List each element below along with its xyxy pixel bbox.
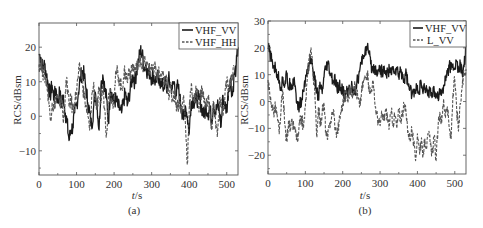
y-tick-label: 30 [254,15,266,27]
legend-item-vhf-vv-b: VHF_VV [425,23,467,34]
y-axis-label-a: RCS/dBsm [11,75,23,125]
chart-panel-a: 0100200300400500 20100−10 RCS/dBsm t/s (… [11,23,238,217]
y-tick-label: 10 [25,76,37,88]
series-line-vhf-vv [39,46,238,141]
caption-b: (b) [359,204,372,217]
legend-a: VHF_VV VHF_HH [179,23,238,49]
x-tick-label: 0 [265,177,271,189]
x-tick-label: 100 [68,178,85,190]
x-axis-label-b: t/s [360,189,370,201]
x-tick-label: 400 [181,178,198,190]
y-axis-label-b: RCS/dBsm [238,75,250,125]
y-tick-label: 20 [25,41,37,53]
x-tick-label: 0 [36,178,42,190]
x-tick-label: 100 [297,177,314,189]
legend-item-vhf-hh-a: VHF_HH [195,37,237,48]
x-tick-label: 500 [447,177,464,189]
y-tick-label: 20 [254,42,266,54]
x-tick-label: 500 [218,178,235,190]
caption-a: (a) [128,204,141,217]
y-tick-label: −10 [248,122,266,134]
y-tick-label: −10 [19,145,37,157]
x-tick-label: 400 [409,177,426,189]
plot-area-b [268,43,466,161]
legend-item-l-vv-b: L_VV [427,35,454,46]
x-tick-label: 300 [143,178,160,190]
x-axis-label-unit-b: /s [363,189,370,201]
legend-item-vhf-vv-a: VHF_VV [195,25,237,36]
x-axis-label-a: t/s [132,189,142,201]
x-tick-label: 200 [106,178,123,190]
y-tick-label: 10 [254,69,266,81]
legend-b: VHF_VV L_VV [410,21,467,47]
plot-area-a [39,46,238,165]
y-tick-label: −20 [248,149,266,161]
chart-panel-b: 0100200300400500 3020100−10−20 RCS/dBsm … [238,15,467,217]
y-tick-label: 0 [31,110,37,122]
figure: 0100200300400500 20100−10 RCS/dBsm t/s (… [0,0,483,228]
x-tick-label: 200 [334,177,351,189]
y-tick-label: 0 [260,96,266,108]
x-axis-label-unit-a: /s [135,189,142,201]
x-tick-label: 300 [372,177,389,189]
